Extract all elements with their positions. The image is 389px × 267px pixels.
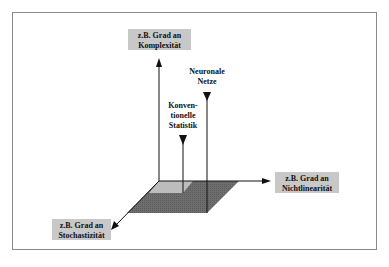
neural-networks-label-line2: Netze bbox=[182, 77, 232, 87]
horizontal-axis-label-line1: z.B. Grad an bbox=[279, 174, 335, 184]
vertical-axis-label-line2: Komplexität bbox=[132, 41, 187, 51]
vertical-axis-label: z.B. Grad an Komplexität bbox=[128, 29, 191, 50]
neural-marker-icon bbox=[203, 92, 211, 101]
conventional-statistics-label-line3: Statistik bbox=[158, 121, 208, 131]
vertical-axis-arrow-icon bbox=[156, 58, 162, 67]
diagonal-axis-arrow-icon bbox=[111, 221, 119, 230]
conventional-statistics-label-line2: tionelle bbox=[158, 111, 208, 121]
conventional-statistics-label-line1: Konven- bbox=[158, 101, 208, 111]
diagonal-axis-label: z.B. Grad an Stochastizität bbox=[52, 219, 111, 240]
diagonal-axis-label-line2: Stochastizität bbox=[56, 231, 107, 241]
vertical-axis-label-line1: z.B. Grad an bbox=[132, 31, 187, 41]
horizontal-axis-label-line2: Nichtlinearität bbox=[279, 184, 335, 194]
neural-networks-label: Neuronale Netze bbox=[182, 67, 232, 87]
conventional-statistics-label: Konven- tionelle Statistik bbox=[158, 101, 208, 131]
horizontal-axis-label: z.B. Grad an Nichtlinearität bbox=[275, 172, 339, 193]
conventional-marker-icon bbox=[179, 135, 187, 145]
horizontal-axis-arrow-icon bbox=[262, 178, 271, 184]
neural-networks-label-line1: Neuronale bbox=[182, 67, 232, 77]
diagonal-axis-label-line1: z.B. Grad an bbox=[56, 221, 107, 231]
